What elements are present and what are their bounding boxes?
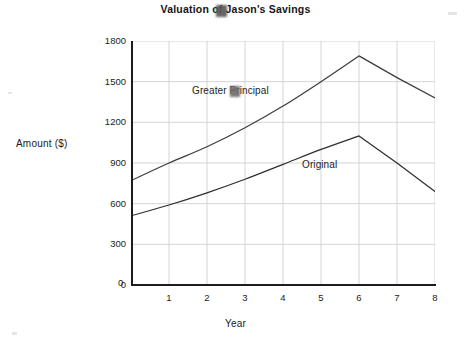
series-line-greater-principal [131, 56, 435, 181]
series-line-original [131, 136, 435, 216]
x-tick-label: 4 [273, 292, 293, 303]
x-tick-label: 3 [235, 292, 255, 303]
scan-speckle [448, 12, 457, 15]
x-axis-title: Year [0, 318, 471, 329]
x-tick-label: 7 [387, 292, 407, 303]
x-tick-label: 2 [197, 292, 217, 303]
scan-speckle [8, 92, 12, 94]
chart-figure: Valuation of Jason's Savings Amount ($) … [0, 0, 471, 345]
y-axis-title: Amount ($) [16, 138, 67, 149]
x-axis-tick-labels: 12345678 [0, 292, 471, 310]
title-smudge-artifact [216, 5, 227, 17]
y-tick-label: 600 [92, 198, 126, 209]
y-tick-label: 300 [92, 238, 126, 249]
y-tick-label: 1500 [92, 76, 126, 87]
y-axis-line [131, 41, 133, 286]
y-tick-label: 900 [92, 157, 126, 168]
series-label-smudge-artifact [230, 86, 240, 97]
y-tick-label: 1200 [92, 116, 126, 127]
x-tick-label: 1 [159, 292, 179, 303]
x-tick-label: 8 [425, 292, 445, 303]
x-tick-label: 5 [311, 292, 331, 303]
x-tick-label: 6 [349, 292, 369, 303]
y-tick-label: 1800 [92, 35, 126, 46]
chart-title: Valuation of Jason's Savings [0, 3, 471, 15]
series-lines [131, 41, 435, 285]
x-axis-line [131, 284, 436, 286]
series-label-original: Original [302, 159, 337, 170]
x-axis-origin-label: 0 [118, 277, 123, 288]
scan-speckle [12, 332, 17, 335]
plot-area [131, 41, 435, 285]
